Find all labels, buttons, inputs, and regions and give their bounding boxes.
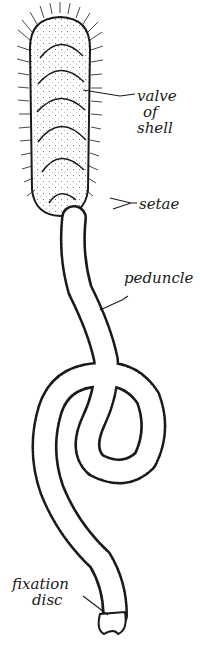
label-valve-of-shell: valve of shell — [137, 88, 177, 136]
label-valve-line1: valve — [137, 88, 177, 104]
label-fixation-disc: fixation disc — [12, 576, 69, 608]
label-fixation-line1: fixation — [12, 576, 69, 592]
label-fixation-line2: disc — [12, 592, 69, 608]
label-peduncle: peduncle — [124, 270, 193, 286]
label-valve-line3: shell — [137, 120, 177, 136]
fixation-disc — [99, 612, 126, 634]
label-valve-line2: of — [137, 104, 177, 120]
shell-outline — [30, 17, 90, 216]
label-setae: setae — [139, 196, 179, 212]
